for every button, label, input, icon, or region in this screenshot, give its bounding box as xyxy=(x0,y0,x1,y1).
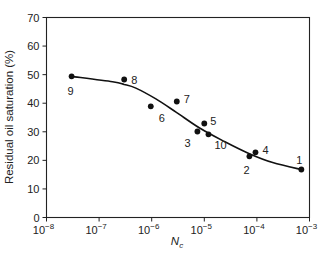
x-axis-ticks: 10−810−710−610−510−410−3 xyxy=(33,218,318,236)
data-point-5 xyxy=(201,121,207,127)
data-point-label: 10 xyxy=(214,139,226,151)
data-point-label: 3 xyxy=(184,137,190,149)
x-axis-title-sub: c xyxy=(179,241,183,250)
y-tick-label: 0 xyxy=(33,212,39,224)
data-point-6 xyxy=(148,103,154,109)
y-tick-label: 40 xyxy=(27,97,39,109)
data-point-3 xyxy=(195,129,201,135)
data-point-10 xyxy=(206,131,212,137)
y-tick-label: 20 xyxy=(27,154,39,166)
data-point-8 xyxy=(121,77,127,83)
plot-frame xyxy=(47,18,310,218)
x-axis-title: Nc xyxy=(171,235,183,250)
data-point-label: 6 xyxy=(159,112,165,124)
y-tick-label: 70 xyxy=(27,12,39,24)
x-tick-label: 10−7 xyxy=(85,222,107,236)
y-axis-ticks: 010203040506070 xyxy=(27,12,46,224)
data-point-4 xyxy=(253,149,259,155)
data-point-label: 2 xyxy=(243,164,249,176)
y-axis-title: Residual oil saturation (%) xyxy=(3,50,15,184)
x-tick-label: 10−4 xyxy=(243,222,265,236)
y-tick-label: 60 xyxy=(27,40,39,52)
y-tick-label: 10 xyxy=(27,183,39,195)
data-point-label: 4 xyxy=(262,144,268,156)
data-point-2 xyxy=(246,153,252,159)
x-tick-label: 10−5 xyxy=(191,222,213,236)
data-point-label: 8 xyxy=(131,74,137,86)
data-point-label: 9 xyxy=(68,85,74,97)
data-point-1 xyxy=(298,167,304,173)
data-point-label: 5 xyxy=(210,115,216,127)
data-point-label: 1 xyxy=(296,154,302,166)
y-tick-label: 30 xyxy=(27,126,39,138)
x-tick-label: 10−8 xyxy=(33,222,55,236)
y-tick-label: 50 xyxy=(27,69,39,81)
x-tick-label: 10−6 xyxy=(138,222,160,236)
data-point-9 xyxy=(69,73,75,79)
x-tick-label: 10−3 xyxy=(296,222,318,236)
chart: 010203040506070 10−810−710−610−510−410−3… xyxy=(0,0,329,261)
data-point-7 xyxy=(174,99,180,105)
data-point-label: 7 xyxy=(184,93,190,105)
